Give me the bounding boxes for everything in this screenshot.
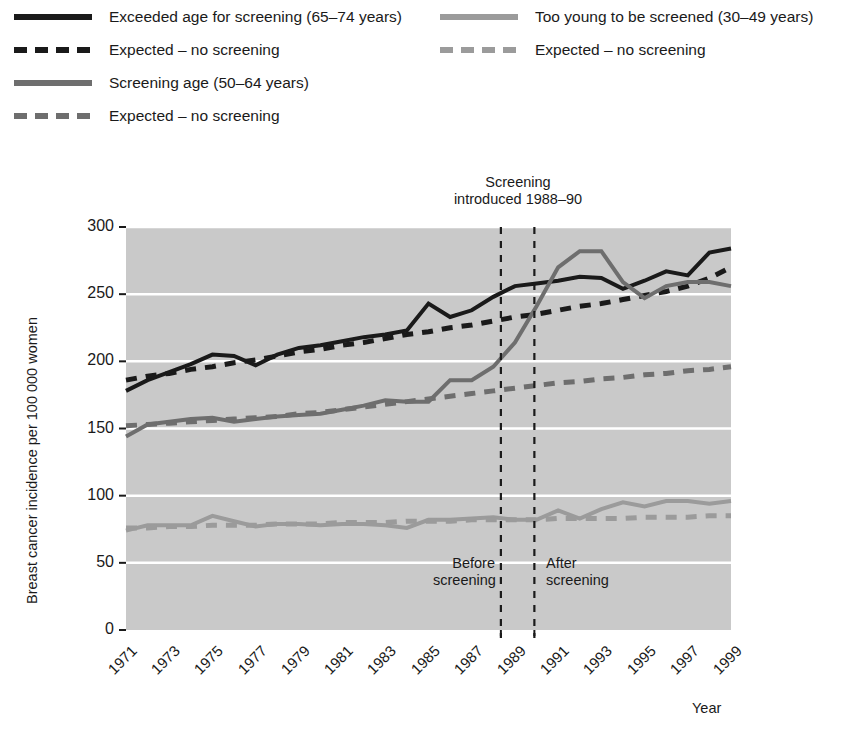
y-tick-label-250: 250 [66,284,114,302]
breast-cancer-incidence-figure: Exceeded age for screening (65–74 years)… [0,0,849,742]
y-tick-label-50: 50 [66,553,114,571]
annotation-before-screening: Before screening [433,555,495,589]
y-tick-label-300: 300 [66,217,114,235]
x-axis-title: Year [692,700,721,716]
y-tick-label-100: 100 [66,486,114,504]
y-tick-label-200: 200 [66,351,114,369]
y-tick-label-150: 150 [66,419,114,437]
y-tick-label-0: 0 [66,620,114,638]
annotation-after-screening: After screening [546,555,636,589]
y-axis-title: Breast cancer incidence per 100 000 wome… [24,317,40,604]
annotation-screening-introduced: Screening introduced 1988–90 [443,174,593,208]
line-chart-plot [0,0,849,742]
